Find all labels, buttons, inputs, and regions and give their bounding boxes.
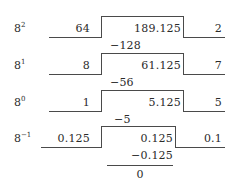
dividend-row-3: 5.125: [110, 96, 181, 109]
quotient-divider-row-4: [175, 126, 176, 148]
power-base-row-1: 8: [14, 22, 21, 35]
bracket-vertical-row-4: [101, 126, 102, 148]
divisor-rule-row-3: [49, 111, 101, 112]
quotient-row-3: 5: [186, 96, 222, 109]
dividend-row-1: 189.125: [110, 22, 181, 35]
final-sum-rule: [107, 165, 173, 166]
divisor-row-4: 0.125: [42, 132, 90, 145]
bracket-top-row-4: [101, 126, 175, 127]
quotient-divider-row-1: [183, 16, 184, 38]
divisor-row-3: 1: [42, 96, 90, 109]
dividend-row-2: 61.125: [110, 59, 181, 72]
quotient-rule-row-2: [183, 74, 225, 75]
quotient-divider-row-2: [183, 53, 184, 75]
divisor-row-1: 64: [42, 22, 90, 35]
quotient-rule-row-4: [175, 147, 225, 148]
subtrahend-row-2: −56: [110, 76, 134, 89]
subtrahend-row-3: −5: [114, 113, 131, 126]
quotient-row-4: 0.1: [178, 132, 222, 145]
power-label-row-2: 81: [14, 59, 25, 72]
power-exponent-row-1: 2: [21, 21, 25, 29]
quotient-rule-row-1: [183, 37, 225, 38]
bracket-vertical-row-3: [101, 90, 102, 112]
bracket-vertical-row-2: [101, 53, 102, 75]
final-remainder: 0: [107, 168, 173, 181]
divisor-row-2: 8: [42, 59, 90, 72]
power-exponent-row-2: 1: [21, 58, 25, 66]
bracket-top-row-3: [101, 90, 183, 91]
divisor-rule-row-4: [41, 147, 101, 148]
power-label-row-4: 8−1: [14, 132, 31, 145]
quotient-row-1: 2: [186, 22, 222, 35]
bracket-top-row-2: [101, 53, 183, 54]
power-label-row-1: 82: [14, 22, 25, 35]
subtrahend-row-4: −0.125: [110, 149, 173, 162]
divisor-rule-row-1: [49, 37, 101, 38]
power-exponent-row-4: −1: [21, 131, 31, 139]
power-base-row-4: 8: [14, 132, 21, 145]
quotient-divider-row-3: [183, 90, 184, 112]
bracket-vertical-row-1: [101, 16, 102, 38]
power-base-row-3: 8: [14, 96, 21, 109]
power-exponent-row-3: 0: [21, 95, 25, 103]
power-label-row-3: 80: [14, 96, 25, 109]
subtrahend-row-1: −128: [110, 39, 141, 52]
dividend-row-4: 0.125: [110, 132, 173, 145]
quotient-rule-row-3: [183, 111, 225, 112]
long-division-figure: 82 64 189.125 2 −128 81 8 61.125 7 −56 8…: [0, 0, 228, 184]
power-base-row-2: 8: [14, 59, 21, 72]
bracket-top-row-1: [101, 16, 183, 17]
quotient-row-2: 7: [186, 59, 222, 72]
divisor-rule-row-2: [49, 74, 101, 75]
